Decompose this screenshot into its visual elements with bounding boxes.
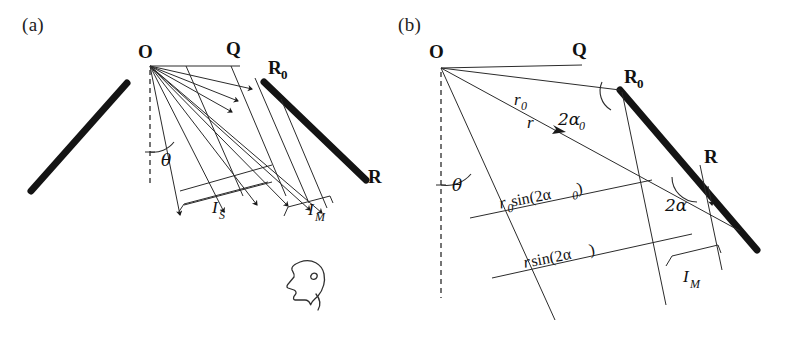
point-sublabel-r0-a: 0 xyxy=(281,67,288,82)
two-alpha-zero-arc xyxy=(600,82,611,110)
point-label-q-b: Q xyxy=(572,39,587,60)
point-label-o-a: O xyxy=(138,41,153,62)
oq-horizontal-line-b xyxy=(441,65,582,68)
drop-line-r0 xyxy=(622,92,666,305)
ray-fan-shallow xyxy=(150,66,252,112)
theta-label-a: θ xyxy=(161,150,171,170)
two-alpha-zero-sublabel: 0 xyxy=(579,119,585,133)
observer-head-icon xyxy=(287,261,325,310)
ray-o-r0 xyxy=(441,68,620,90)
point-label-r-a: R xyxy=(368,166,382,187)
r-sin-fn: sin(2α xyxy=(530,245,574,270)
point-label-r-b: R xyxy=(704,146,718,167)
im-label-b: I xyxy=(682,267,690,286)
chord-r0-sin xyxy=(470,180,652,218)
two-alpha-zero-label: 2α xyxy=(557,109,581,129)
image-mirror-bar xyxy=(264,82,366,180)
im-bracket-right-tick xyxy=(330,196,333,203)
im-label-a: I xyxy=(307,200,315,219)
point-label-r0-a: R xyxy=(268,57,282,78)
point-label-q-a: Q xyxy=(226,38,241,59)
r-label: r xyxy=(527,113,534,132)
is-sublabel: S xyxy=(219,208,225,222)
optics-figure: (a) (b) xyxy=(0,0,799,338)
figure-canvas: O Q R 0 R θ I S I M xyxy=(0,0,799,338)
panel-a-group: O Q R 0 R θ I S I M xyxy=(31,38,382,310)
im-bracket-left-tick xyxy=(284,207,288,216)
r0-sublabel: 0 xyxy=(521,99,527,113)
panel-b-group: O Q R 0 R r 0 r 2α 0 2α θ r 0 sin(2α 0 ) xyxy=(429,39,757,320)
ray-5 xyxy=(150,66,310,210)
wavefront-lines xyxy=(186,66,327,208)
point-sublabel-r0-b: 0 xyxy=(637,76,644,91)
im-sublabel-a: M xyxy=(314,210,326,224)
drop-line-r xyxy=(700,165,722,270)
r-sin-group: r sin(2α ) xyxy=(522,239,597,271)
im-bracket-left-tick-b xyxy=(666,256,672,266)
point-label-o-b: O xyxy=(429,41,444,62)
ray-fan-down xyxy=(150,66,322,215)
im-bracket-span-b xyxy=(672,245,718,256)
source-mirror-bar xyxy=(31,83,127,191)
im-bracket-b xyxy=(666,245,721,266)
ray-2 xyxy=(150,66,224,212)
im-sublabel-b: M xyxy=(689,277,701,291)
base-line-lower xyxy=(184,182,272,205)
shallow-ray-3 xyxy=(150,66,232,112)
base-line-upper xyxy=(180,165,272,191)
r0-sin-group: r 0 sin(2α 0 ) xyxy=(498,178,585,217)
theta-label-b: θ xyxy=(452,175,462,195)
r0-sin-fn: sin(2α xyxy=(509,185,553,210)
is-bracket-span xyxy=(184,182,268,204)
point-label-r0-b: R xyxy=(624,66,638,87)
two-alpha-label: 2α xyxy=(664,195,688,215)
r0-label: r xyxy=(514,90,521,109)
image-mirror-bar-b xyxy=(620,90,757,250)
ray-o-r xyxy=(441,68,740,231)
